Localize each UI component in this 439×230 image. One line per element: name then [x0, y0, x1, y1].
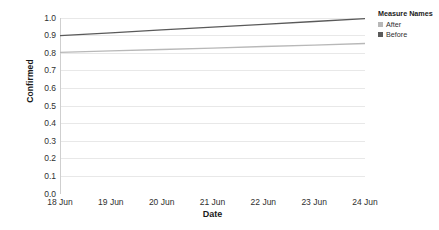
legend-swatch-icon — [378, 22, 383, 27]
legend-item-after[interactable]: After — [378, 20, 436, 29]
legend-swatch-icon — [378, 32, 383, 37]
x-axis-title: Date — [60, 209, 365, 220]
series-line-after[interactable] — [60, 44, 365, 53]
y-axis-tick-labels: 1.00.90.80.70.60.50.40.30.20.10.0 — [30, 0, 56, 230]
plot-svg — [60, 18, 365, 194]
legend-item-label: Before — [386, 30, 407, 39]
plot-area — [60, 18, 365, 194]
y-axis-tick-label: 0.4 — [30, 119, 56, 128]
line-chart: Confirmed 1.00.90.80.70.60.50.40.30.20.1… — [0, 0, 439, 230]
legend: Measure Names AfterBefore — [378, 9, 436, 40]
y-axis-tick-label: 0.5 — [30, 102, 56, 111]
y-axis-tick-label: 0.6 — [30, 84, 56, 93]
legend-item-label: After — [386, 20, 401, 29]
y-axis-tick-label: 1.0 — [30, 14, 56, 23]
y-axis-tick-label: 0.9 — [30, 31, 56, 40]
y-axis-tick-label: 0.1 — [30, 172, 56, 181]
series-line-before[interactable] — [60, 19, 365, 36]
x-axis-tick-label: 24 Jun — [335, 197, 395, 208]
y-axis-tick-label: 0.8 — [30, 49, 56, 58]
legend-items: AfterBefore — [378, 20, 436, 39]
y-axis-tick-label: 0.2 — [30, 154, 56, 163]
y-axis-tick-label: 0.7 — [30, 66, 56, 75]
y-axis-tick-label: 0.3 — [30, 137, 56, 146]
legend-title: Measure Names — [378, 9, 436, 18]
legend-item-before[interactable]: Before — [378, 30, 436, 39]
